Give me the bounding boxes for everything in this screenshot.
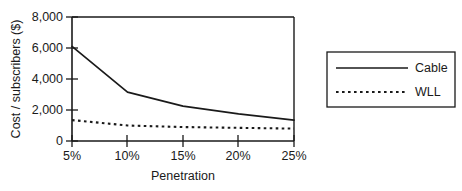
legend-label-wll: WLL xyxy=(415,85,441,99)
series-line-wll xyxy=(72,120,294,129)
legend-label-cable: Cable xyxy=(415,61,448,75)
line-chart-svg: 0 2,000 4,000 6,000 8,000 5% 10% 15% 20%… xyxy=(0,0,462,191)
x-tick-label-20: 20% xyxy=(225,149,250,163)
x-tick-label-10: 10% xyxy=(114,149,139,163)
x-axis-title: Penetration xyxy=(151,169,215,183)
y-tick-label-4000: 4,000 xyxy=(32,72,63,86)
series-line-cable xyxy=(72,46,294,120)
chart-figure: 0 2,000 4,000 6,000 8,000 5% 10% 15% 20%… xyxy=(0,0,462,191)
y-tick-label-6000: 6,000 xyxy=(32,41,63,55)
legend: Cable WLL xyxy=(327,52,455,107)
x-tick-label-5: 5% xyxy=(63,149,81,163)
y-axis-title: Cost / subscribers ($) xyxy=(9,20,23,139)
y-tick-label-2000: 2,000 xyxy=(32,103,63,117)
x-tick-label-15: 15% xyxy=(170,149,195,163)
plot-frame xyxy=(72,17,294,141)
x-tick-label-25: 25% xyxy=(281,149,306,163)
x-tick-labels: 5% 10% 15% 20% 25% xyxy=(63,149,307,163)
y-tick-label-8000: 8,000 xyxy=(32,10,63,24)
y-tick-label-0: 0 xyxy=(56,134,63,148)
y-tick-labels: 0 2,000 4,000 6,000 8,000 xyxy=(32,10,63,148)
